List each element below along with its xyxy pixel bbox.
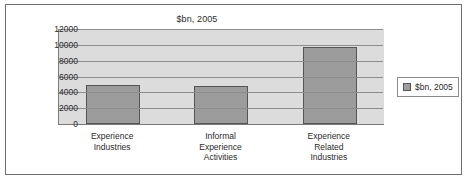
y-axis-tick-label: 10000 [18, 40, 78, 50]
x-axis-category-label: InformalExperienceActivities [166, 131, 274, 163]
gridline [58, 108, 383, 109]
x-axis-category-label: ExperienceRelatedIndustries [275, 131, 383, 163]
gridline [58, 61, 383, 62]
x-axis-category-label: ExperienceIndustries [58, 131, 166, 152]
y-axis-tick-label: 2000 [18, 103, 78, 113]
legend: $bn, 2005 [397, 77, 459, 97]
x-axis-category-label-line: Experience [275, 131, 383, 142]
y-axis-tick-label: 8000 [18, 56, 78, 66]
gridline [58, 92, 383, 93]
legend-label: $bn, 2005 [415, 82, 453, 92]
bar[interactable] [303, 47, 357, 124]
x-axis-category-label-line: Industries [58, 142, 166, 153]
chart-frame: $bn, 2005 120001000080006000400020000 Ex… [5, 4, 462, 175]
x-axis-category-label-line: Industries [275, 152, 383, 163]
x-axis-category-label-line: Related [275, 142, 383, 153]
gridline [58, 29, 383, 30]
gridline [58, 77, 383, 78]
y-axis-tick-label: 0 [18, 119, 78, 129]
chart-title: $bn, 2005 [6, 14, 388, 24]
y-axis-tick-label: 4000 [18, 87, 78, 97]
y-axis-tick-label: 6000 [18, 72, 78, 82]
x-axis-category-label-line: Informal [166, 131, 274, 142]
gridline [58, 45, 383, 46]
legend-swatch-icon [403, 83, 411, 91]
x-axis-category-label-line: Experience [166, 142, 274, 153]
x-axis-category-label-line: Experience [58, 131, 166, 142]
x-axis-category-label-line: Activities [166, 152, 274, 163]
y-axis-tick-label: 12000 [18, 24, 78, 34]
